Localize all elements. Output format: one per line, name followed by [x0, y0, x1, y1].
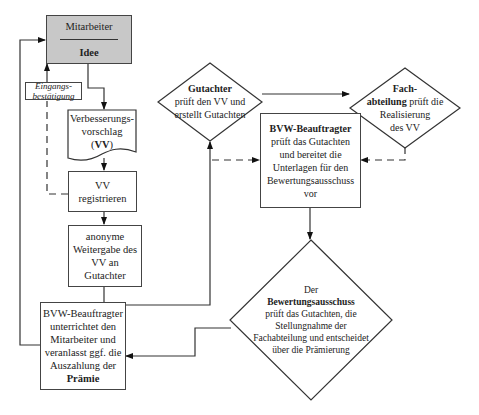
bvw-prueft-line1: prüft das Gutachten: [271, 135, 350, 148]
separator: [60, 39, 119, 40]
bewertung-line4: über die Prämierung: [246, 344, 376, 356]
bewertung-title: Bewertungsausschuss: [267, 297, 355, 307]
eingang-line2: bestätigung: [33, 91, 75, 101]
eingang-line1: Eingangs-: [35, 81, 72, 91]
vv-doc-line1: Verbesserungs-: [68, 112, 136, 125]
fach-line2: Realisierung: [355, 108, 455, 121]
bewertung-line3: Fachabteilung und entscheidet: [246, 332, 376, 344]
gutachter-line1: prüft den VV und: [160, 95, 260, 108]
praemie-line4: veranlasst ggf. die: [45, 346, 122, 359]
gutachter-title: Gutachter: [188, 83, 232, 94]
vv-reg-line2: registrieren: [79, 192, 127, 205]
praemie-line5: Auszahlung der: [50, 359, 116, 372]
anonyme-weitergabe-box: anonyme Weitergabe des VV an Gutachter: [68, 225, 142, 287]
praemie-line3: Mitarbeiter und: [50, 333, 116, 346]
anonym-line3: VV an: [91, 256, 119, 269]
vv-document-text: Verbesserungs- vorschlag (VV): [68, 112, 136, 151]
bvw-praemie-box: BVW-Beauftragter unterrichtet den Mitarb…: [40, 302, 126, 390]
bvw-prueft-line2: und bereitet die: [279, 148, 341, 161]
praemie-title: Prämie: [67, 372, 100, 385]
anonym-line2: Weitergabe des: [73, 243, 137, 256]
fach-rest: prüft die: [407, 96, 444, 107]
bewertung-line2: Stellungnahme der: [246, 320, 376, 332]
mitarbeiter-label: Mitarbeiter: [65, 20, 112, 33]
eingangsbestaetigung-box: Eingangs- bestätigung: [25, 82, 82, 100]
vv-doc-line2: vorschlag: [68, 125, 136, 138]
fach-title1: Fach-: [393, 83, 417, 94]
bewertung-line0: Der: [246, 284, 376, 296]
gutachter-line2: erstellt Gutachten: [160, 108, 260, 121]
bvw-prueft-line5: vor: [304, 187, 317, 200]
vv-doc-line3: (VV): [68, 138, 136, 151]
anonym-line1: anonyme: [86, 230, 125, 243]
idee-label: Idee: [79, 46, 98, 59]
bvw-prueft-line4: Bewertungsausschuss: [267, 174, 354, 187]
mitarbeiter-idee-box: Mitarbeiter Idee: [46, 15, 132, 64]
bewertung-line1: prüft das Gutachten, die: [246, 308, 376, 320]
bewertungsausschuss-text: Der Bewertungsausschuss prüft das Gutach…: [246, 284, 376, 356]
bvw-prueft-box: BVW-Beauftragter prüft das Gutachten und…: [260, 113, 361, 208]
praemie-line2: unterrichtet den: [50, 320, 116, 333]
bvw-prueft-line3: Unterlagen für den: [273, 161, 349, 174]
anonym-line4: Gutachter: [84, 269, 125, 282]
gutachter-text: Gutachter prüft den VV und erstellt Guta…: [160, 82, 260, 121]
bvw-prueft-title: BVW-Beauftragter: [270, 122, 352, 135]
praemie-line1: BVW-Beauftragter: [43, 307, 123, 320]
vv-registrieren-box: VV registrieren: [68, 171, 137, 212]
fach-title2: abteilung: [367, 96, 407, 107]
fach-line3: des VV: [355, 121, 455, 134]
vv-reg-line1: VV: [95, 179, 110, 192]
fachabteilung-text: Fach- abteilung prüft die Realisierung d…: [355, 82, 455, 134]
